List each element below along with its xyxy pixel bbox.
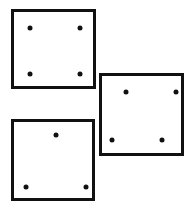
- dot-icon: [28, 26, 33, 31]
- dot-icon: [78, 26, 83, 31]
- dot-icon: [160, 138, 165, 143]
- dot-icon: [54, 133, 59, 138]
- dot-icon: [110, 138, 115, 143]
- box-four-dots-right: [99, 73, 184, 156]
- dot-icon: [174, 90, 179, 95]
- dot-icon: [24, 185, 29, 190]
- box-three-dots-bottom-left: [11, 119, 95, 201]
- dot-icon: [84, 185, 89, 190]
- dot-icon: [78, 72, 83, 77]
- dot-icon: [28, 72, 33, 77]
- box-four-dots-top-left: [11, 9, 96, 89]
- dot-icon: [124, 90, 129, 95]
